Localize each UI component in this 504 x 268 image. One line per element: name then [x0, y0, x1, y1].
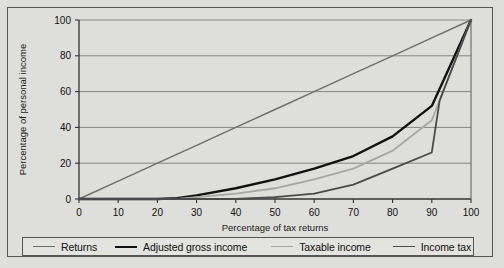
y-tick-label-40: 40 — [60, 122, 72, 133]
y-tick-group: 020406080100 — [54, 15, 79, 205]
x-tick-label-60: 60 — [309, 207, 321, 218]
x-tick-label-100: 100 — [463, 207, 480, 218]
legend-label: Income tax — [421, 241, 471, 253]
data-series-group — [79, 20, 471, 199]
x-tick-label-80: 80 — [387, 207, 399, 218]
x-tick-label-70: 70 — [348, 207, 360, 218]
legend-item-income-tax[interactable]: Income tax — [393, 241, 471, 253]
series-line-returns — [79, 20, 471, 199]
x-tick-label-20: 20 — [152, 207, 164, 218]
y-tick-label-80: 80 — [60, 50, 72, 61]
legend-swatch-icon — [393, 246, 415, 247]
legend-label: Taxable income — [299, 241, 371, 253]
legend-item-taxable-income[interactable]: Taxable income — [271, 241, 371, 253]
legend-label: Returns — [61, 241, 97, 253]
x-tick-label-0: 0 — [76, 207, 82, 218]
legend-label: Adjusted gross income — [143, 241, 247, 253]
y-tick-label-100: 100 — [54, 15, 71, 26]
legend-swatch-icon — [271, 246, 293, 247]
lorenz-curve-chart: 020406080100 0102030405060708090100 Perc… — [0, 0, 504, 268]
x-tick-label-30: 30 — [191, 207, 203, 218]
y-tick-label-60: 60 — [60, 86, 72, 97]
chart-legend: ReturnsAdjusted gross incomeTaxable inco… — [22, 237, 474, 256]
legend-swatch-icon — [33, 246, 55, 247]
plot-wrapper: 020406080100 0102030405060708090100 Perc… — [0, 0, 504, 268]
x-tick-label-90: 90 — [426, 207, 438, 218]
x-tick-label-10: 10 — [113, 207, 125, 218]
chart-figure: 020406080100 0102030405060708090100 Perc… — [0, 0, 504, 268]
y-tick-label-20: 20 — [60, 158, 72, 169]
legend-item-returns[interactable]: Returns — [33, 241, 97, 253]
x-tick-label-50: 50 — [269, 207, 281, 218]
legend-item-adjusted-gross-income[interactable]: Adjusted gross income — [115, 241, 247, 253]
x-axis-label: Percentage of tax returns — [222, 222, 329, 233]
x-tick-label-40: 40 — [230, 207, 242, 218]
x-tick-group: 0102030405060708090100 — [76, 199, 480, 218]
y-tick-label-0: 0 — [65, 194, 71, 205]
legend-swatch-icon — [115, 246, 137, 248]
y-axis-label: Percentage of personal income — [17, 44, 28, 176]
